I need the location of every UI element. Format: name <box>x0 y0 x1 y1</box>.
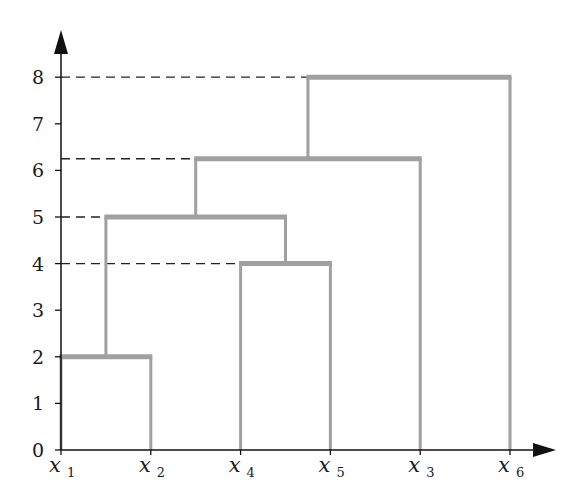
leaf-label-x4: x <box>229 453 241 477</box>
axes <box>54 30 556 457</box>
leaf-label-x3: x <box>408 453 420 477</box>
x-axis-arrow-icon <box>533 443 556 457</box>
leaf-label-x6: x <box>498 453 510 477</box>
y-tick-label: 3 <box>32 299 44 321</box>
y-tick-label: 0 <box>32 439 44 461</box>
leaf-subscript: 2 <box>157 465 165 480</box>
y-tick-label: 2 <box>32 346 44 368</box>
y-tick-label: 5 <box>32 206 44 228</box>
merge-3 <box>104 217 287 357</box>
dendrogram-diagram: 012345678 x1x2x4x5x3x6 <box>0 0 588 502</box>
y-tick-label: 4 <box>32 253 44 275</box>
merge-5 <box>306 77 511 450</box>
y-tick-label: 6 <box>32 159 44 181</box>
leaf-subscript: 5 <box>336 465 344 480</box>
x-axis-leaf-labels: x1x2x4x5x3x6 <box>49 450 524 480</box>
y-axis-ticks: 012345678 <box>32 66 61 461</box>
y-axis-arrow-icon <box>54 30 68 54</box>
y-tick-label: 1 <box>32 392 44 414</box>
merge-4 <box>194 159 422 450</box>
leaf-subscript: 3 <box>426 465 434 480</box>
merge-1 <box>60 357 153 450</box>
leaf-label-x2: x <box>139 453 151 477</box>
leaf-subscript: 6 <box>516 465 524 480</box>
merge-2 <box>239 264 332 450</box>
leaf-label-x5: x <box>318 453 330 477</box>
y-tick-label: 8 <box>32 66 44 88</box>
leaf-subscript: 4 <box>247 465 255 480</box>
leaf-label-x1: x <box>49 453 61 477</box>
leaf-subscript: 1 <box>67 465 75 480</box>
dashed-reference-lines <box>61 77 308 263</box>
y-tick-label: 7 <box>32 113 44 135</box>
